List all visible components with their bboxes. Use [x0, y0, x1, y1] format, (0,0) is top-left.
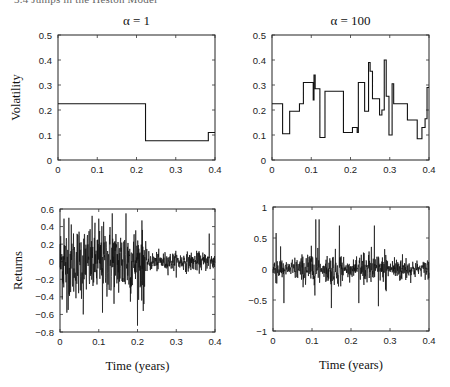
returns-line [273, 219, 429, 308]
y-tick-label: 0.2 [41, 239, 54, 250]
x-tick-label: 0.3 [169, 164, 182, 175]
x-tick-label: 0.4 [208, 336, 221, 347]
volatility-line [272, 60, 429, 139]
chart-panel-vol_alpha100: 00.10.20.30.400.10.20.30.40.5α = 100 [253, 13, 436, 175]
x-tick-label: 0 [57, 336, 62, 347]
x-tick-label: 0.4 [422, 164, 435, 175]
y-tick-label: 0.4 [39, 55, 52, 66]
y-tick-label: 0 [262, 264, 267, 275]
x-tick-label: 0.3 [383, 335, 396, 346]
x-axis-label: Time (years) [106, 359, 170, 373]
y-tick-label: 0.3 [39, 80, 52, 91]
x-tick-label: 0.2 [344, 335, 357, 346]
panel-title: α = 1 [123, 13, 150, 28]
chart-panel-ret_alpha100: 00.10.20.30.4−1−0.500.51Time (years) [248, 202, 435, 373]
x-tick-label: 0.1 [305, 164, 318, 175]
y-tick-label: −1 [256, 326, 267, 337]
y-tick-label: −0.6 [35, 309, 54, 320]
x-tick-label: 0.2 [344, 164, 357, 175]
y-tick-label: 0.2 [39, 105, 52, 116]
y-tick-label: 0.1 [253, 130, 266, 141]
x-tick-label: 0.1 [91, 164, 104, 175]
x-tick-label: 0 [270, 335, 275, 346]
x-tick-label: 0.1 [92, 336, 105, 347]
y-tick-label: 0.2 [253, 105, 266, 116]
x-tick-label: 0.3 [383, 164, 396, 175]
x-tick-label: 0.3 [170, 336, 183, 347]
returns-line [60, 213, 215, 325]
x-tick-label: 0.2 [131, 336, 144, 347]
y-tick-label: 1 [262, 202, 267, 213]
panel-title: α = 100 [330, 13, 370, 28]
x-tick-label: 0 [55, 164, 60, 175]
y-tick-label: 0.5 [254, 233, 267, 244]
y-tick-label: −0.4 [35, 291, 54, 302]
y-axis-label: Volatility [9, 74, 23, 121]
y-tick-label: 0 [49, 256, 54, 267]
figure: 00.10.20.30.400.10.20.30.40.5α = 1Volati… [0, 0, 450, 387]
x-axis-label: Time (years) [319, 358, 383, 372]
y-tick-label: 0.5 [39, 30, 52, 41]
plot-frame [272, 35, 429, 160]
x-tick-label: 0 [269, 164, 274, 175]
x-tick-label: 0.2 [130, 164, 143, 175]
volatility-line [58, 104, 215, 141]
y-tick-label: −0.8 [35, 327, 54, 338]
x-tick-label: 0.4 [208, 164, 221, 175]
chart-panel-vol_alpha1: 00.10.20.30.400.10.20.30.40.5α = 1Volati… [9, 13, 222, 175]
y-tick-label: 0.5 [253, 30, 266, 41]
y-tick-label: 0.1 [39, 130, 52, 141]
y-tick-label: 0.3 [253, 80, 266, 91]
y-tick-label: 0 [47, 155, 52, 166]
y-tick-label: 0.4 [253, 55, 266, 66]
y-tick-label: 0.6 [41, 204, 54, 215]
y-tick-label: −0.5 [248, 295, 267, 306]
chart-panel-ret_alpha1: 00.10.20.30.4−0.8−0.6−0.4−0.200.20.40.6R… [11, 204, 222, 374]
y-axis-label: Returns [11, 251, 25, 290]
y-tick-label: 0.4 [41, 221, 54, 232]
y-tick-label: −0.2 [35, 274, 54, 285]
y-tick-label: 0 [261, 155, 266, 166]
x-tick-label: 0.4 [422, 335, 435, 346]
x-tick-label: 0.1 [305, 335, 318, 346]
